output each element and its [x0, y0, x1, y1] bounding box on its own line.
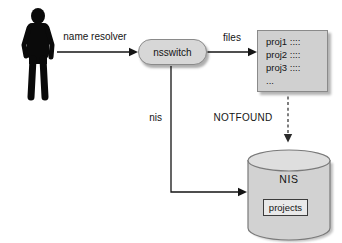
nsswitch-node: nsswitch [138, 39, 207, 65]
nis-database-cylinder [248, 150, 333, 242]
nsswitch-flow-diagram: name resolver files nis NOTFOUND nsswitc… [0, 0, 342, 243]
projects-label: projects [269, 202, 302, 213]
files-label: files [205, 32, 259, 44]
projects-map: projects [263, 199, 308, 216]
notfound-label: NOTFOUND [209, 112, 277, 124]
nis-store-label: NIS [264, 173, 314, 185]
files-entry: proj3 :::: [266, 61, 327, 74]
nis-edge-label: nis [136, 112, 162, 124]
files-entry: ... [266, 74, 327, 87]
nsswitch-label: nsswitch [153, 47, 191, 58]
files-entry: proj2 :::: [266, 48, 327, 61]
files-arrow [208, 48, 258, 56]
files-store: proj1 :::: proj2 :::: proj3 :::: ... [257, 30, 328, 92]
nis-arrow [171, 66, 247, 196]
files-entry: proj1 :::: [266, 35, 327, 48]
person-icon [24, 8, 52, 97]
notfound-arrow [284, 97, 292, 143]
name-resolver-label: name resolver [55, 31, 135, 43]
name-resolver-arrow [57, 48, 138, 56]
